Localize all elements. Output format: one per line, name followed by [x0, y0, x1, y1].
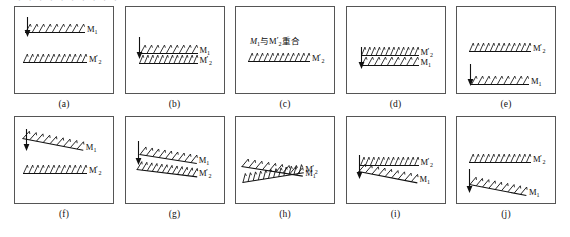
mirror-m1-f [22, 129, 89, 154]
mirror-m1-d [361, 56, 423, 69]
panel-box-e: M′2M1 [456, 6, 556, 94]
cropped-title-fragment: · · · · · · · · · · [18, 0, 120, 1]
panel-row-bottom: M1M′2(f)M1M′2(g)M′2M1(h)M′2M1(i)M′2M1(j) [0, 116, 570, 226]
mirror-m2-prime-e [469, 42, 535, 55]
mirror-m1-j [469, 175, 532, 200]
mirror-label-m1-e: M1 [531, 77, 542, 86]
figure-root: · · · · · · · · · · M1M′2(a)M1M′2(b)M1与M… [0, 0, 570, 237]
panel-box-i: M′2M1 [346, 116, 446, 204]
panel-c: M1与M′2重合M′2(c) [235, 6, 335, 116]
panel-caption-c: (c) [279, 99, 290, 109]
panel-i: M′2M1(i) [346, 116, 446, 226]
mirror-label-m2-prime-a: M′2 [89, 55, 101, 64]
panel-h: M′2M1(h) [235, 116, 335, 226]
panel-g: M1M′2(g) [125, 116, 225, 226]
panel-j: M′2M1(j) [456, 116, 556, 226]
panel-caption-i: (i) [391, 209, 401, 219]
mirror-label-m1-i: M1 [419, 175, 430, 184]
panel-f: M1M′2(f) [14, 116, 114, 226]
panel-row-top: M1M′2(a)M1M′2(b)M1与M′2重合M′2(c)M′2M1(d)M′… [0, 6, 570, 116]
panel-caption-d: (d) [390, 99, 402, 109]
panel-d: M′2M1(d) [346, 6, 446, 116]
panel-caption-e: (e) [500, 99, 511, 109]
mirror-label-m2-prime-b: M′2 [200, 56, 212, 65]
mirror-m2-prime-f [23, 164, 91, 177]
panel-caption-h: (h) [279, 209, 291, 219]
panel-box-j: M′2M1 [456, 116, 556, 204]
panel-e: M′2M1(e) [456, 6, 556, 116]
panel-box-f: M1M′2 [14, 116, 114, 204]
mirror-label-m1-d: M1 [421, 58, 432, 67]
panel-box-a: M1M′2 [14, 6, 114, 94]
panel-caption-a: (a) [58, 99, 69, 109]
mirror-label-m2-prime-f: M′2 [89, 166, 101, 175]
annotation-coincide: M1与M′2重合 [250, 37, 300, 46]
mirror-m1-a [25, 23, 89, 36]
mirror-label-m2-prime-i: M′2 [421, 158, 433, 167]
panel-box-h: M′2M1 [235, 116, 335, 204]
panel-box-b: M1M′2 [125, 6, 225, 94]
mirror-m1-e [471, 75, 533, 88]
panel-caption-g: (g) [169, 209, 181, 219]
mirror-label-m1-j: M1 [529, 188, 540, 197]
mirror-m2-prime-a [23, 53, 91, 66]
mirror-m2-prime-b [139, 54, 202, 67]
panel-a: M1M′2(a) [14, 6, 114, 116]
panel-box-c: M1与M′2重合M′2 [235, 6, 335, 94]
mirror-label-m2-prime-j: M′2 [533, 155, 545, 164]
panel-caption-j: (j) [501, 209, 511, 219]
mirror-label-m1-a: M1 [87, 25, 98, 34]
mirror-m2-prime-c [248, 52, 314, 65]
mirror-m2-prime-j [469, 153, 535, 166]
mirror-label-m2-prime-g: M′2 [199, 169, 211, 178]
panel-b: M1M′2(b) [125, 6, 225, 116]
panel-box-g: M1M′2 [125, 116, 225, 204]
mirror-label-m2-prime-c: M′2 [312, 54, 324, 63]
panel-caption-f: (f) [59, 209, 69, 219]
panel-caption-b: (b) [169, 99, 181, 109]
mirror-label-m1-h: M1 [305, 169, 316, 178]
mirror-label-m2-prime-e: M′2 [533, 44, 545, 53]
mirror-label-m1-g: M1 [199, 156, 210, 165]
panel-box-d: M′2M1 [346, 6, 446, 94]
mirror-label-m1-f: M1 [86, 143, 97, 152]
